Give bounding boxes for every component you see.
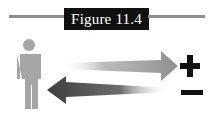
plus-sign-icon — [180, 55, 200, 77]
outgoing-arrow-icon — [62, 51, 178, 81]
incoming-arrow-icon — [47, 76, 170, 104]
diagram-canvas — [0, 0, 213, 124]
minus-sign-icon — [181, 90, 203, 95]
person-silhouette-icon — [17, 39, 41, 109]
